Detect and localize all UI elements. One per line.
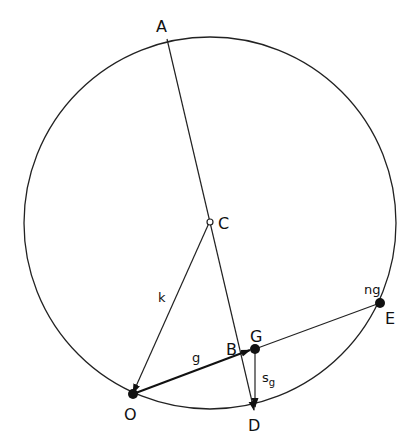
label-e: E <box>385 309 395 328</box>
label-k: k <box>158 290 166 305</box>
vector-k <box>133 223 209 393</box>
point-c-marker <box>207 219 213 225</box>
label-d: D <box>248 416 260 435</box>
label-sg: sg <box>262 370 275 388</box>
label-c: C <box>218 214 229 233</box>
label-b: B <box>226 340 237 359</box>
label-g: g <box>192 350 200 365</box>
label-a: A <box>156 17 167 36</box>
label-g-point: G <box>250 327 262 346</box>
ewald-sphere-diagram: A C k g B G sg O D ng E <box>0 0 413 447</box>
point-e-marker <box>375 298 385 308</box>
label-ng: ng <box>364 282 381 297</box>
label-o: O <box>124 405 137 424</box>
point-o-marker <box>128 389 138 399</box>
line-g-to-e <box>255 303 380 349</box>
